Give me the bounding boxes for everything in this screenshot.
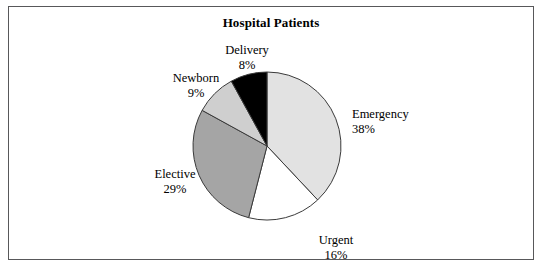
pie-label-delivery-value: 8% [205, 58, 289, 73]
pie-label-emergency-value: 38% [352, 122, 452, 137]
pie-label-elective-name: Elective [133, 167, 217, 182]
pie-label-newborn-name: Newborn [154, 71, 238, 86]
pie-label-newborn-value: 9% [154, 86, 238, 101]
pie-label-delivery-name: Delivery [205, 43, 289, 58]
pie-label-elective: Elective 29% [133, 167, 217, 196]
pie-label-elective-value: 29% [133, 182, 217, 197]
chart-frame: Hospital Patients Delivery 8% Newborn 9%… [8, 6, 534, 260]
pie-label-emergency-name: Emergency [352, 107, 452, 122]
pie-chart: Delivery 8% Newborn 9% Elective 29% Urge… [9, 7, 535, 261]
pie-label-newborn: Newborn 9% [154, 71, 238, 100]
pie-label-emergency: Emergency 38% [352, 107, 452, 136]
pie-label-urgent: Urgent 16% [294, 233, 378, 262]
pie-label-urgent-value: 16% [294, 248, 378, 263]
pie-label-urgent-name: Urgent [294, 233, 378, 248]
pie-label-delivery: Delivery 8% [205, 43, 289, 72]
